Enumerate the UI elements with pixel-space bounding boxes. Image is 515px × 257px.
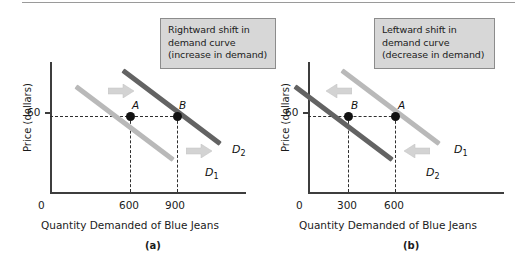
point-a-label: A xyxy=(132,99,139,111)
y-axis-b xyxy=(308,62,310,193)
y-tick-60-a xyxy=(45,112,50,114)
curve-label-d1-a-sub: 1 xyxy=(213,172,218,181)
y-tick-60-b xyxy=(303,112,308,114)
y-axis-a xyxy=(50,62,52,193)
quantity-guide-900-a xyxy=(177,116,178,192)
price-guide-b xyxy=(308,116,402,117)
panel-b: Leftward shift in demand curve (decrease… xyxy=(258,0,515,257)
curve-label-d1-a: D1 xyxy=(205,166,219,181)
curve-label-d1-b: D1 xyxy=(454,143,468,158)
curve-label-d1-b-sub: 1 xyxy=(462,149,467,158)
x-axis-b xyxy=(308,192,504,194)
point-a-label: A xyxy=(398,99,405,111)
point-b-marker xyxy=(344,112,353,121)
x-tick-label-300-b: 300 xyxy=(337,199,357,211)
origin-label-a: 0 xyxy=(38,199,45,211)
callout-leftward-shift: Leftward shift in demand curve (decrease… xyxy=(374,18,495,69)
curve-label-d2-a: D2 xyxy=(232,143,246,158)
point-b-label: B xyxy=(351,99,358,111)
x-tick-label-600-b: 600 xyxy=(384,199,404,211)
shift-arrow-upper-b xyxy=(326,84,352,98)
x-axis-label-b: Quantity Demanded of Blue Jeans xyxy=(299,219,477,231)
panel-label-a: (a) xyxy=(145,240,161,251)
point-b-marker xyxy=(173,112,182,121)
demand-shift-figure: Rightward shift in demand curve (increas… xyxy=(0,0,515,257)
curve-label-d2-b-sub: 2 xyxy=(434,172,439,181)
x-tick-label-900-a: 900 xyxy=(165,199,185,211)
point-b-label: B xyxy=(179,99,186,111)
origin-label-b: 0 xyxy=(296,199,303,211)
quantity-guide-600-b xyxy=(395,116,396,192)
panel-label-b: (b) xyxy=(403,240,419,251)
shift-arrow-lower-a xyxy=(186,144,212,158)
x-axis-a xyxy=(50,192,246,194)
panel-a: Rightward shift in demand curve (increas… xyxy=(0,0,257,257)
x-tick-label-600-a: 600 xyxy=(119,199,139,211)
y-tick-label-60-b: 60 xyxy=(285,106,298,118)
shift-arrow-upper-a xyxy=(108,84,134,98)
curve-label-d2-b: D2 xyxy=(426,166,440,181)
point-a-marker xyxy=(391,112,400,121)
point-a-marker xyxy=(126,112,135,121)
y-tick-label-60-a: 60 xyxy=(27,106,40,118)
curve-label-d2-a-sub: 2 xyxy=(240,149,245,158)
shift-arrow-lower-b xyxy=(404,144,430,158)
x-axis-label-a: Quantity Demanded of Blue Jeans xyxy=(41,219,219,231)
